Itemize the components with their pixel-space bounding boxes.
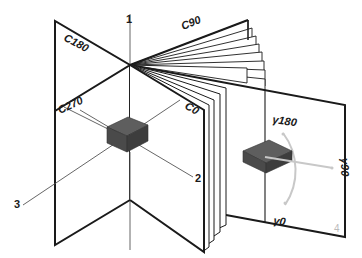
label-gamma-90: γ90	[339, 158, 351, 177]
page-number: 4	[334, 223, 340, 234]
label-c90: C90	[179, 13, 203, 32]
label-axis-3: 3	[14, 198, 20, 210]
label-axis-1: 1	[126, 13, 132, 25]
c-gamma-diagram: C180 C270 C90 C0 γ180 γ0 γ90 1 2 3 4	[0, 0, 362, 258]
gamma-90-dot	[331, 167, 334, 170]
arc-end-dot	[284, 202, 287, 205]
arc-start-dot	[282, 133, 285, 136]
label-c270: C270	[56, 93, 86, 115]
label-axis-2: 2	[195, 172, 201, 184]
